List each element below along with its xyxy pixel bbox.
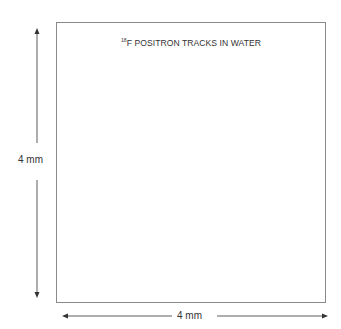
title-text: F POSITRON TRACKS IN WATER — [127, 38, 261, 48]
vertical-dimension-label: 4 mm — [18, 154, 43, 165]
figure-title: 18F POSITRON TRACKS IN WATER — [57, 37, 325, 48]
figure-frame: 18F POSITRON TRACKS IN WATER — [56, 22, 326, 303]
horizontal-dimension-label: 4 mm — [177, 310, 202, 321]
